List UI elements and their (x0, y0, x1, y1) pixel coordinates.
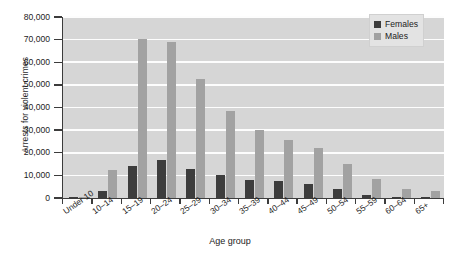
bar-females[interactable] (186, 169, 195, 198)
x-axis-tick (296, 199, 297, 204)
bar-females[interactable] (245, 180, 254, 198)
x-axis-tick (179, 199, 180, 204)
bar-females[interactable] (216, 175, 225, 198)
legend-swatch-females (374, 21, 381, 28)
bar-males[interactable] (138, 39, 147, 199)
y-axis-tick (54, 152, 62, 153)
bar-males[interactable] (108, 170, 117, 198)
y-axis-tick (54, 129, 62, 130)
x-axis-tick (91, 199, 92, 204)
legend-item-females[interactable]: Females (374, 19, 418, 30)
legend: Females Males (369, 14, 424, 47)
bar-group (157, 17, 176, 198)
bar-males[interactable] (314, 148, 323, 198)
x-axis-tick-label: 65+ (413, 200, 430, 216)
y-axis-tick-label: 40,000 (0, 102, 50, 112)
bar-group (274, 17, 293, 198)
bar-group (216, 17, 235, 198)
y-axis-tick-label: 0 (0, 193, 50, 203)
x-axis-tick (238, 199, 239, 204)
y-axis-tick-label: 30,000 (0, 125, 50, 135)
y-axis-tick (54, 107, 62, 108)
y-axis-tick-label: 50,000 (0, 79, 50, 89)
x-axis-tick (62, 199, 63, 204)
bar-males[interactable] (343, 164, 352, 198)
bar-group (304, 17, 323, 198)
y-axis-tick (54, 16, 62, 17)
y-axis-tick (54, 175, 62, 176)
x-axis-title: Age group (150, 236, 310, 246)
legend-swatch-males (374, 33, 381, 40)
bar-group (245, 17, 264, 198)
bar-females[interactable] (128, 166, 137, 198)
bar-males[interactable] (284, 140, 293, 198)
y-axis-tick-label: 70,000 (0, 34, 50, 44)
y-axis-tick (54, 62, 62, 63)
legend-item-males[interactable]: Males (374, 31, 418, 42)
x-axis-tick (326, 199, 327, 204)
bar-group (333, 17, 352, 198)
bar-males[interactable] (226, 111, 235, 198)
y-axis-tick-label: 10,000 (0, 170, 50, 180)
bar-males[interactable] (255, 130, 264, 198)
bar-females[interactable] (157, 160, 166, 198)
bar-males[interactable] (167, 42, 176, 198)
y-axis-tick-label: 20,000 (0, 147, 50, 157)
y-axis-tick (54, 197, 62, 198)
x-axis-tick (150, 199, 151, 204)
legend-label-females: Females (385, 19, 418, 30)
legend-label-males: Males (385, 31, 408, 42)
y-axis-tick-label: 60,000 (0, 57, 50, 67)
y-axis-tick-label: 80,000 (0, 12, 50, 22)
x-axis-tick (209, 199, 210, 204)
y-axis-tick (54, 84, 62, 85)
x-axis-tick (121, 199, 122, 204)
x-axis-tick (414, 199, 415, 204)
x-axis-tick (355, 199, 356, 204)
x-axis-tick (443, 199, 444, 204)
bar-group (186, 17, 205, 198)
x-axis-tick (267, 199, 268, 204)
bar-group (128, 17, 147, 198)
y-axis-tick (54, 39, 62, 40)
bar-males[interactable] (431, 191, 440, 198)
bar-chart: Arrests for violent crimes 010,00020,000… (0, 0, 467, 260)
x-axis-tick (384, 199, 385, 204)
bar-females[interactable] (421, 197, 430, 198)
bar-group (98, 17, 117, 198)
bar-group (69, 17, 88, 198)
bar-males[interactable] (196, 79, 205, 198)
